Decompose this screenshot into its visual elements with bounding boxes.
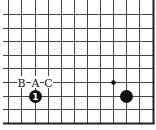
- board-grid: BAC1: [0, 0, 156, 130]
- stone-move-number: 1: [32, 92, 38, 102]
- go-board-diagram: BAC1: [0, 0, 156, 130]
- point-label-a: A: [31, 77, 41, 90]
- black-stone: [120, 90, 133, 103]
- point-label-c: C: [44, 77, 52, 90]
- point-label-b: B: [17, 77, 25, 90]
- star-point: [111, 80, 116, 85]
- black-stone-numbered: 1: [29, 90, 42, 103]
